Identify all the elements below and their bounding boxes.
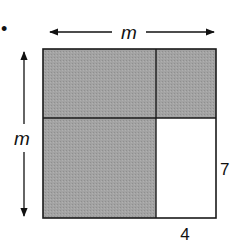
region-top-right xyxy=(156,49,216,118)
top-dimension-label: m xyxy=(121,22,137,43)
region-top-left xyxy=(43,49,156,118)
bullet-marker: • xyxy=(1,19,7,39)
left-dimension-label: m xyxy=(14,128,30,149)
region-bottom-right xyxy=(156,118,216,218)
square-diagram: • m m 7 4 xyxy=(0,0,234,245)
bottom-segment-label: 4 xyxy=(180,225,189,244)
right-segment-label: 7 xyxy=(220,160,229,179)
region-bottom-left xyxy=(43,118,156,218)
